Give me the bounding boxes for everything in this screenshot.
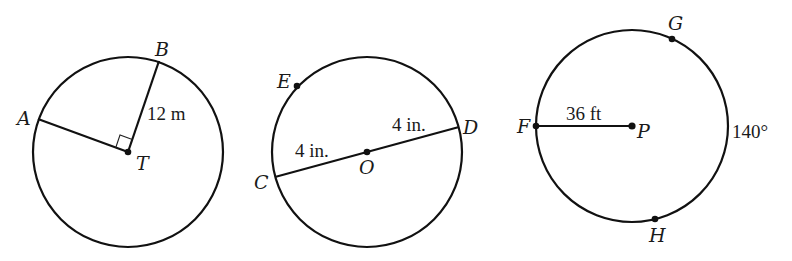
arc-measure-gh: 140° <box>732 121 768 142</box>
point-h <box>652 216 659 223</box>
point-g <box>669 36 676 43</box>
label-t: T <box>136 152 150 174</box>
circle-t-figure: A B T 12 m <box>15 38 223 247</box>
measure-tb: 12 m <box>147 103 186 124</box>
circle-o-figure: E C D O 4 in. 4 in. <box>254 57 478 247</box>
label-o: O <box>359 156 375 178</box>
circle-p-figure: F G H P 36 ft 140° <box>516 12 768 246</box>
label-p: P <box>636 120 651 142</box>
center-point-t <box>125 149 132 156</box>
label-b: B <box>154 38 169 60</box>
radius-ta <box>38 119 128 152</box>
label-a: A <box>15 107 31 129</box>
measure-fp: 36 ft <box>566 103 602 124</box>
label-d: D <box>462 116 478 138</box>
label-f: F <box>516 115 531 137</box>
label-e: E <box>276 70 291 92</box>
circle-diagrams: A B T 12 m E C D O 4 in. 4 in. F G H P 3… <box>0 0 792 261</box>
point-f <box>533 123 540 130</box>
center-point-p <box>628 122 635 129</box>
center-point-o <box>364 149 371 156</box>
label-c: C <box>254 171 269 193</box>
measure-od: 4 in. <box>392 114 426 135</box>
label-g: G <box>668 12 683 34</box>
measure-co: 4 in. <box>295 140 329 161</box>
point-e <box>294 83 301 90</box>
label-h: H <box>648 224 666 246</box>
